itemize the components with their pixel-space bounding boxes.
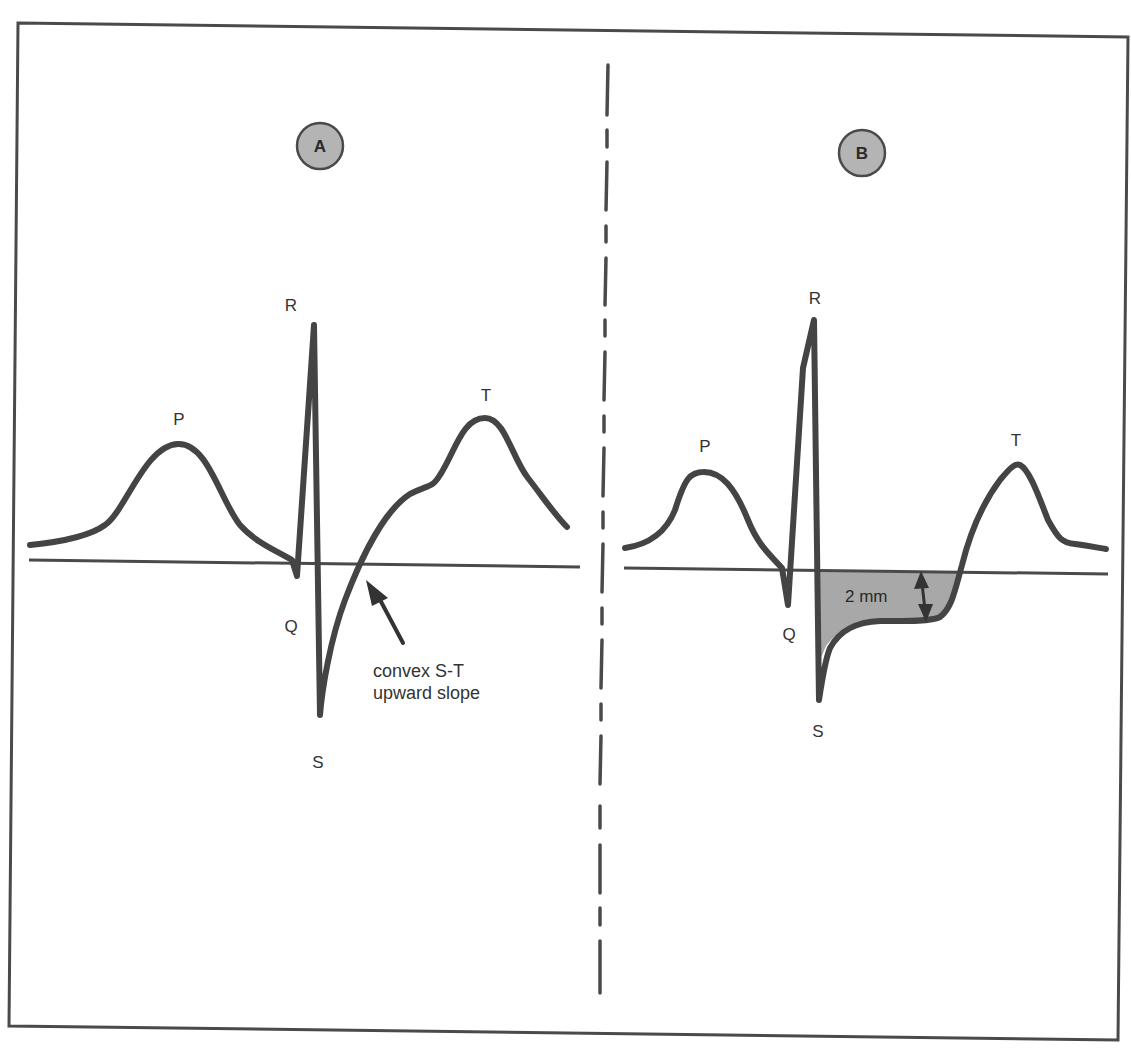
badge-a-label: A [314,137,326,156]
label-r-a: R [285,296,297,315]
depression-label: 2 mm [845,587,888,606]
badge-a: A [297,123,343,169]
label-s-b: S [812,722,823,741]
label-q-a: Q [284,617,297,636]
outer-frame [9,23,1128,1040]
baseline-a [29,560,580,567]
label-p-a: P [173,410,184,429]
panel-a: A P R T Q S convex S-T upward slope [29,123,580,772]
label-s-a: S [312,753,323,772]
panel-b: B 2 mm P R T Q S [624,130,1108,741]
badge-b-label: B [856,144,868,163]
label-t-a: T [481,386,491,405]
arrow-icon [366,580,403,643]
label-r-b: R [809,289,821,308]
annotation-line1: convex S-T [373,661,464,681]
annotation-line2: upward slope [373,683,480,703]
ecg-waveform-a [30,325,567,715]
badge-b: B [839,130,885,176]
panel-divider [600,65,608,993]
label-t-b: T [1011,431,1021,450]
label-p-b: P [699,437,710,456]
label-q-b: Q [782,625,795,644]
ecg-diagram: A P R T Q S convex S-T upward slope B [0,0,1131,1054]
ecg-waveform-b [625,320,1106,700]
